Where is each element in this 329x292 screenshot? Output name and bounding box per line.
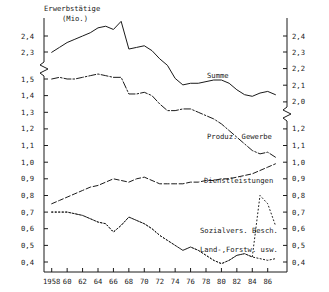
xtick-label-60: 60 (63, 277, 72, 286)
chart-subtitle: (Mio.) (62, 14, 88, 23)
ytick-right-label-1.1: 1,1 (292, 141, 305, 150)
xtick-label-74: 74 (171, 277, 180, 286)
xtick-label-66: 66 (109, 277, 118, 286)
right-axis: 2,4 2,3 2,2 2,1 2,0 1,2 1,1 1,0 0,9 0,8 … (283, 18, 305, 272)
xtick-label-64: 64 (94, 277, 103, 286)
ytick-right-label-2.4: 2,4 (292, 32, 305, 41)
xtick-label-80: 80 (217, 277, 226, 286)
ytick-label-0.9: 0,9 (21, 174, 34, 183)
ytick-right-label-0.8: 0,8 (292, 191, 305, 200)
ytick-right-label-0.7: 0,7 (292, 208, 305, 217)
employment-line-chart: Erwerbstätige (Mio.) 2,4 2,3 (0, 0, 329, 292)
series-label-produz: Produz. Gewerbe (207, 132, 272, 141)
ytick-label-2.3: 2,3 (21, 48, 34, 57)
ytick-right-label-0.4: 0,4 (292, 258, 305, 267)
ytick-label-0.7: 0,7 (21, 208, 34, 217)
ytick-label-0.4: 0,4 (21, 258, 34, 267)
chart-root: Erwerbstätige (Mio.) 2,4 2,3 (0, 0, 329, 292)
series-label-land: Land-,Forstw. usw. (200, 245, 278, 254)
ytick-label-0.6: 0,6 (21, 224, 34, 233)
ytick-right-label-2.3: 2,3 (292, 48, 305, 57)
ytick-label-2.4: 2,4 (21, 32, 34, 41)
ytick-label-1.1: 1,1 (21, 141, 34, 150)
xtick-label-62: 62 (78, 277, 87, 286)
xtick-label-68: 68 (125, 277, 134, 286)
xtick-label-84: 84 (248, 277, 257, 286)
ytick-right-label-1.2: 1,2 (292, 124, 305, 133)
series-label-sozial: Sozialvers. Besch. (200, 226, 278, 235)
ytick-label-1.4: 1,4 (21, 91, 34, 100)
ytick-label-1.2: 1,2 (21, 124, 34, 133)
ytick-label-1.0: 1,0 (21, 158, 34, 167)
ytick-right-label-0.5: 0,5 (292, 241, 305, 250)
xtick-label-78: 78 (202, 277, 211, 286)
ytick-label-0.8: 0,8 (21, 191, 34, 200)
ytick-label-0.5: 0,5 (21, 241, 34, 250)
series-line-produz-gewerbe (52, 74, 276, 157)
series-line-summe (52, 21, 276, 96)
xtick-label-70: 70 (140, 277, 149, 286)
series-label-dienst: Dienstleistungen (204, 176, 273, 185)
ytick-right-label-2.1: 2,1 (292, 81, 305, 90)
xtick-label-82: 82 (233, 277, 242, 286)
xtick-label-72: 72 (155, 277, 164, 286)
ytick-right-label-0.6: 0,6 (292, 224, 305, 233)
chart-title: Erwerbstätige (44, 4, 100, 13)
xtick-label-86: 86 (263, 277, 272, 286)
xtick-label-1958: 1958 (43, 277, 60, 286)
series-label-summe: Summe (207, 71, 229, 80)
ytick-label-1.5: 1,5 (21, 75, 34, 84)
ytick-right-label-2.0: 2,0 (292, 97, 305, 106)
ytick-right-label-2.2: 2,2 (292, 64, 305, 73)
series-line-land-forstw-usw (52, 212, 276, 264)
xtick-label-76: 76 (186, 277, 195, 286)
ytick-label-1.3: 1,3 (21, 108, 34, 117)
ytick-right-label-0.9: 0,9 (292, 174, 305, 183)
x-axis-ticks: 19586062646668707274767880828486 (43, 268, 272, 286)
ytick-right-label-1.0: 1,0 (292, 158, 305, 167)
